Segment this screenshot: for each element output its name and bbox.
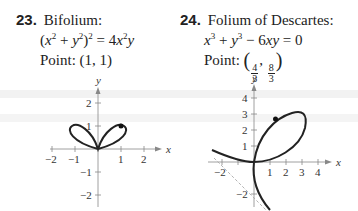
x-tick-label: −2 <box>214 166 226 178</box>
graph-folium: x y −2 1 2 3 4 4 3 2 1 −2 <box>0 0 358 211</box>
y-axis-label: y <box>251 72 257 84</box>
y-tick-label: 1 <box>242 140 248 152</box>
asymptote-line <box>214 158 266 210</box>
x-tick-label: 3 <box>299 166 305 178</box>
x-tick-label: 4 <box>315 166 321 178</box>
y-tick-label: 4 <box>242 92 248 104</box>
ticks <box>222 98 318 194</box>
folium-curve <box>212 112 306 210</box>
highlight-point <box>273 117 278 122</box>
y-axis-arrow-icon <box>252 84 257 91</box>
y-tick-label: 3 <box>242 108 248 120</box>
x-axis-arrow-icon <box>325 160 332 165</box>
y-tick-label: 2 <box>242 124 248 136</box>
x-axis-label: x <box>335 156 341 168</box>
x-tick-label: 2 <box>283 166 289 178</box>
x-tick-label: 1 <box>267 166 273 178</box>
